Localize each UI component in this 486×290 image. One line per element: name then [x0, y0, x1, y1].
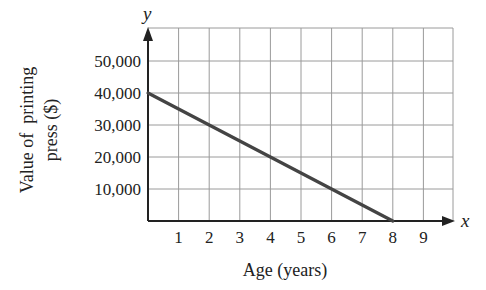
x-tick-label: 8: [389, 228, 398, 247]
x-tick-label: 4: [266, 228, 275, 247]
line-chart: 123456789 10,00020,00030,00040,00050,000…: [0, 0, 486, 290]
x-tick-label: 1: [174, 228, 183, 247]
x-tick-label: 7: [358, 228, 367, 247]
x-axis-title: Age (years): [243, 260, 327, 281]
x-axis-variable: x: [460, 210, 470, 231]
y-axis-title-line-2: press ($): [41, 99, 62, 161]
x-tick-label: 9: [419, 228, 428, 247]
axes: [143, 27, 455, 226]
y-tick-labels: 10,00020,00030,00040,00050,000: [94, 52, 141, 199]
x-tick-label: 5: [297, 228, 306, 247]
x-tick-labels: 123456789: [174, 228, 427, 247]
y-axis-title: Value of printing press ($): [17, 67, 62, 193]
y-tick-label: 10,000: [94, 180, 141, 199]
y-axis-title-line-1: Value of printing: [17, 67, 37, 193]
grid: [148, 28, 453, 221]
y-tick-label: 30,000: [94, 116, 141, 135]
x-tick-label: 2: [205, 228, 214, 247]
x-tick-label: 3: [236, 228, 245, 247]
y-axis-variable: y: [141, 3, 152, 24]
y-tick-label: 40,000: [94, 84, 141, 103]
y-tick-label: 50,000: [94, 52, 141, 71]
y-tick-label: 20,000: [94, 148, 141, 167]
y-axis-arrow-icon: [143, 27, 153, 41]
x-tick-label: 6: [327, 228, 336, 247]
